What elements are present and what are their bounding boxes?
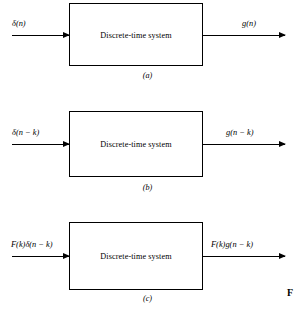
- output-arrow-c: [203, 256, 285, 257]
- output-arrow-a: [203, 35, 285, 36]
- input-arrow-b: [12, 144, 69, 145]
- output-signal-label-c: F(k)g(n − k): [211, 241, 253, 249]
- system-block-label-a: Discrete-time system: [70, 32, 202, 40]
- system-block-label-c: Discrete-time system: [70, 253, 202, 261]
- output-signal-label-a: g(n): [242, 20, 256, 28]
- diagram-panel-c: F(k)δ(n − k) Discrete-time system F(k)g(…: [0, 219, 295, 310]
- input-arrow-c: [12, 256, 69, 257]
- input-signal-label-a: δ(n): [12, 20, 26, 28]
- diagram-panel-a: δ(n) Discrete-time system g(n) (a): [0, 0, 295, 105]
- system-block-c: Discrete-time system: [69, 222, 203, 290]
- system-block-a: Discrete-time system: [69, 3, 203, 66]
- diagram-panel-b: δ(n − k) Discrete-time system g(n − k) (…: [0, 108, 295, 213]
- figure-block-diagrams: δ(n) Discrete-time system g(n) (a) δ(n −…: [0, 0, 295, 310]
- system-block-b: Discrete-time system: [69, 111, 203, 177]
- system-block-label-b: Discrete-time system: [70, 141, 202, 149]
- input-signal-label-c: F(k)δ(n − k): [11, 241, 53, 249]
- subfigure-caption-b: (b): [0, 184, 295, 192]
- input-signal-label-b: δ(n − k): [12, 129, 39, 137]
- output-arrow-b: [203, 144, 285, 145]
- input-arrow-a: [12, 35, 69, 36]
- output-signal-label-b: g(n − k): [226, 129, 254, 137]
- subfigure-caption-a: (a): [0, 72, 295, 80]
- figure-caption-marker: F: [287, 288, 293, 298]
- subfigure-caption-c: (c): [0, 295, 295, 303]
